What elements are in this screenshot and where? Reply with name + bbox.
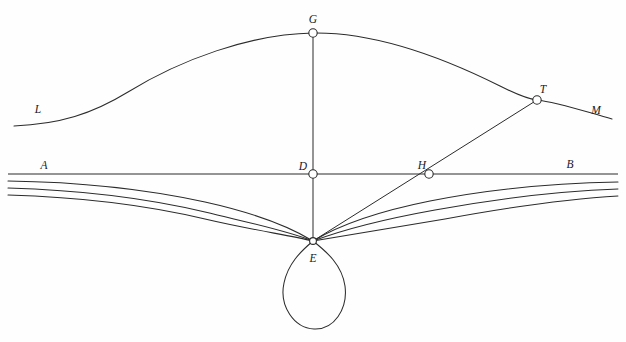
point-marker-d[interactable]	[309, 170, 317, 178]
label-a: A	[39, 159, 48, 171]
point-marker-t[interactable]	[533, 96, 541, 104]
label-h: H	[417, 159, 427, 171]
label-b: B	[566, 158, 573, 170]
label-d: D	[298, 160, 308, 172]
point-marker-h[interactable]	[425, 170, 433, 178]
label-m: M	[590, 104, 602, 116]
label-g: G	[309, 13, 318, 25]
figure-container: L G T M A D H B E	[0, 0, 626, 342]
point-marker-g[interactable]	[309, 29, 317, 37]
label-l: L	[34, 103, 41, 115]
geometric-diagram: L G T M A D H B E	[0, 0, 626, 342]
point-marker-e[interactable]	[310, 238, 317, 245]
label-e: E	[308, 252, 316, 264]
label-t: T	[540, 83, 548, 95]
